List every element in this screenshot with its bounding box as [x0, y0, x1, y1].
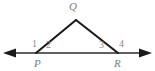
arrowhead-left-icon [3, 48, 16, 57]
angle-label-1: 1 [32, 39, 37, 49]
segment-PQ [36, 20, 76, 53]
arrowhead-right-icon [139, 48, 152, 57]
geometry-figure: Q P R 1 2 3 4 [0, 0, 155, 71]
vertex-label-r: R [114, 58, 121, 69]
angle-label-3: 3 [99, 40, 104, 50]
segment-QR [76, 20, 118, 53]
vertex-label-q: Q [69, 1, 77, 12]
angle-label-2: 2 [46, 40, 51, 50]
figure-canvas [0, 0, 155, 71]
vertex-label-p: P [34, 58, 41, 69]
angle-label-4: 4 [119, 39, 124, 49]
